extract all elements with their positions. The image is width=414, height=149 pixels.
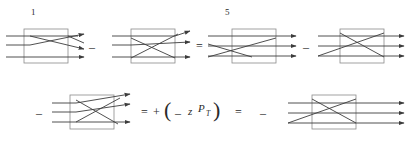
diagram-5-line-b-out [76, 104, 130, 112]
paren-open: ( [164, 99, 171, 121]
operator-equals-3: = [235, 106, 242, 118]
diagram-1 [6, 29, 84, 63]
operator-minus-2: – [303, 41, 309, 53]
diagram-2-cross-2 [131, 34, 178, 58]
subscript-T: T [206, 110, 210, 118]
diagram-5 [52, 94, 130, 129]
paren-close: ) [213, 99, 220, 121]
minus-inner: – [175, 107, 181, 119]
diagram-2-line-a-out [175, 31, 190, 36]
operator-plus-1: + [153, 106, 160, 118]
equation-figure [0, 0, 414, 149]
diagram-3-index-label: 5 [225, 8, 230, 17]
diagram-1-line-cross [30, 36, 84, 49]
diagram-4-cross-1 [340, 33, 384, 57]
operator-minus-3: – [36, 107, 42, 119]
variable-z: z [188, 106, 192, 117]
operator-minus-4: – [260, 107, 266, 119]
diagram-6 [288, 95, 404, 129]
diagram-4 [318, 29, 404, 63]
operator-equals-2: = [141, 106, 148, 118]
variable-P: P [198, 103, 205, 114]
diagram-2 [112, 29, 190, 63]
diagram-1-line-d [68, 36, 84, 43]
operator-minus-1: – [89, 41, 95, 53]
diagram-2-box [131, 29, 175, 63]
diagram-1-box [24, 29, 68, 63]
diagram-5-cross-1 [76, 100, 118, 124]
diagram-1-index-label: 1 [31, 8, 36, 17]
operator-equals-1: = [196, 40, 203, 52]
diagram-3 [208, 29, 296, 63]
